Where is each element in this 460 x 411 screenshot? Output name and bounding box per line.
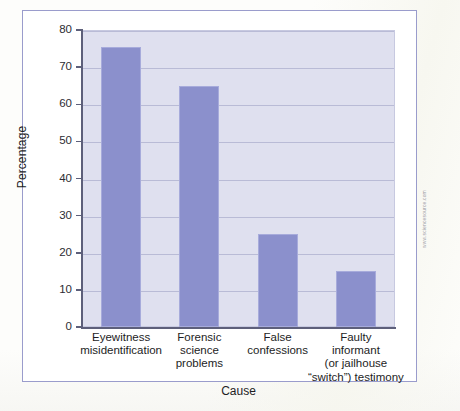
y-axis-tick-label: 10 <box>44 284 72 296</box>
y-axis-tick-mark <box>76 66 81 68</box>
bar <box>258 234 298 327</box>
bar <box>336 271 376 327</box>
x-axis-tick-label-line: problems <box>148 357 250 370</box>
y-axis-tick-mark <box>76 252 81 254</box>
bar-chart: 01020304050607080 Percentage Eyewitnessm… <box>0 0 460 411</box>
y-axis-tick-mark <box>76 29 81 31</box>
source-credit-text: www.sciencesource.com <box>421 116 427 248</box>
y-axis-tick-mark <box>76 104 81 106</box>
bar <box>179 86 219 327</box>
x-axis-tick-label-line: (or jailhouse <box>305 357 407 370</box>
x-axis-tick-label-line: Faulty <box>305 331 407 344</box>
x-axis-tick-labels: EyewitnessmisidentificationForensicscien… <box>82 331 395 391</box>
y-axis-tick-mark <box>76 215 81 217</box>
y-axis-tick-label: 30 <box>44 210 72 222</box>
y-axis-tick-label: 20 <box>44 247 72 259</box>
y-axis-tick-mark <box>76 326 81 328</box>
bars-layer <box>82 30 395 327</box>
x-axis-tick-label-line: “switch”) testimony <box>305 371 407 384</box>
y-axis-title: Percentage <box>15 102 29 212</box>
y-axis-tick-label: 40 <box>44 173 72 185</box>
x-axis-tick-label: Faultyinformant(or jailhouse“switch”) te… <box>305 331 407 384</box>
y-axis-spine <box>81 29 83 328</box>
bar <box>101 47 141 327</box>
y-axis-tick-label: 0 <box>44 321 72 333</box>
y-axis-tick-mark <box>76 141 81 143</box>
y-axis-tick-label: 70 <box>44 61 72 73</box>
y-axis-tick-label: 50 <box>44 135 72 147</box>
x-axis-tick-label-line: informant <box>305 344 407 357</box>
y-axis-tick-label: 80 <box>44 24 72 36</box>
y-axis-tick-labels: 01020304050607080 <box>42 0 72 411</box>
x-axis-spine <box>81 327 396 329</box>
y-axis-tick-mark <box>76 178 81 180</box>
y-axis-tick-label: 60 <box>44 98 72 110</box>
y-axis-tick-mark <box>76 289 81 291</box>
x-axis-title: Cause <box>82 384 395 398</box>
